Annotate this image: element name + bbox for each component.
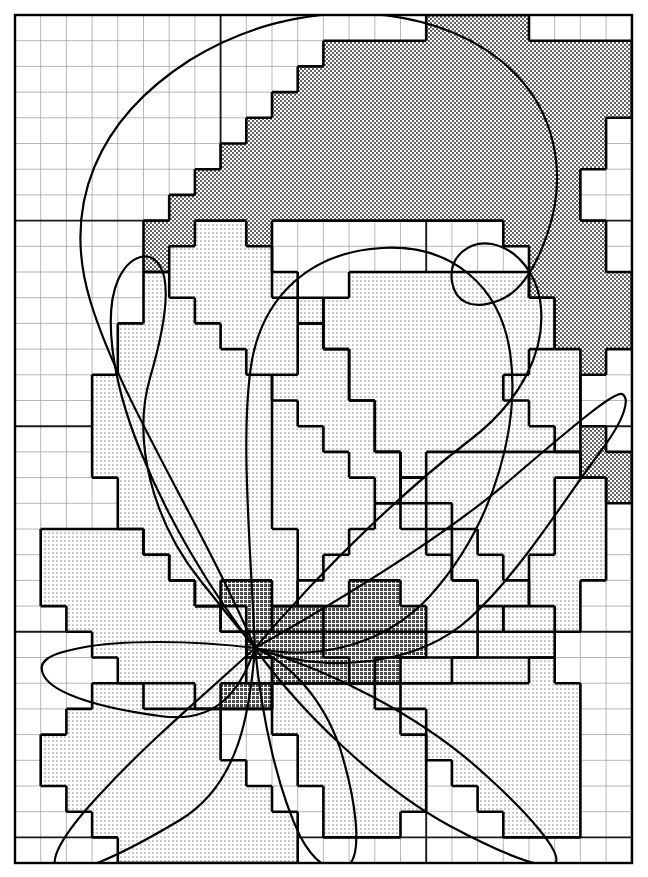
figure-root <box>0 0 648 877</box>
rasterized-flower-figure <box>0 0 648 877</box>
